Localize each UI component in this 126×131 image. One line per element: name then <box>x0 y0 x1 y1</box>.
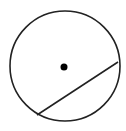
circle-diagram <box>0 0 126 131</box>
chord-line <box>37 62 118 115</box>
center-point <box>61 64 68 71</box>
